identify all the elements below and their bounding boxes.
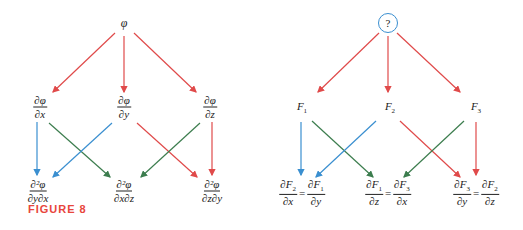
f1-node: F1 bbox=[297, 101, 307, 115]
figure-caption: FIGURE 8 bbox=[28, 203, 87, 215]
equation-2: ∂F1∂z=∂F3∂x bbox=[365, 179, 411, 207]
phi-node: φ bbox=[121, 17, 128, 29]
d2phi-dzdy-node: ∂²φ∂z∂y bbox=[201, 179, 223, 204]
unknown-potential-node: ? bbox=[378, 13, 398, 33]
equation-1: ∂F2∂x=∂F1∂y bbox=[279, 179, 325, 207]
f3-node: F3 bbox=[471, 101, 481, 115]
dphi-dz-node: ∂φ∂z bbox=[203, 95, 217, 120]
arrows-layer bbox=[0, 0, 523, 230]
dphi-dx-node: ∂φ∂x bbox=[33, 95, 47, 120]
question-circle-icon: ? bbox=[378, 13, 398, 33]
equation-3: ∂F3∂y=∂F2∂z bbox=[453, 179, 499, 207]
f2-node: F2 bbox=[385, 101, 395, 115]
d2phi-dydx-node: ∂²φ∂y∂x bbox=[27, 179, 50, 204]
dphi-dy-node: ∂φ∂y bbox=[117, 95, 131, 120]
d2phi-dxdz-node: ∂²φ∂x∂z bbox=[113, 179, 135, 204]
